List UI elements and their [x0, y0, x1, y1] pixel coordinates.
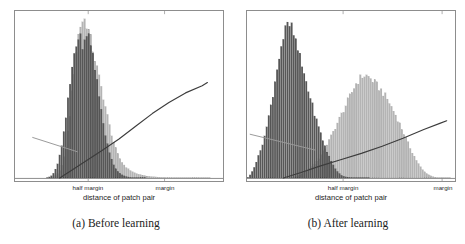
histogram-plot-b	[247, 11, 455, 181]
panel-before-learning: half margin margin distance of patch pai…	[0, 0, 232, 244]
tick-label-margin: margin	[434, 183, 453, 192]
histogram-plot-a	[15, 11, 223, 181]
tick-label-half-margin: half margin	[73, 183, 104, 192]
plot-frame-a	[14, 10, 224, 182]
figure-container: half margin margin distance of patch pai…	[0, 0, 465, 244]
x-axis-title-b: distance of patch pair	[246, 192, 456, 203]
panel-after-learning: half margin margin distance of patch pai…	[232, 0, 464, 244]
x-axis-title-a: distance of patch pair	[14, 192, 224, 203]
tick-label-margin: margin	[156, 183, 175, 192]
subcaption-a: (a) Before learning	[0, 216, 232, 231]
subcaption-b: (b) After learning	[232, 216, 464, 231]
plot-frame-b	[246, 10, 456, 182]
tick-label-half-margin: half margin	[328, 183, 359, 192]
